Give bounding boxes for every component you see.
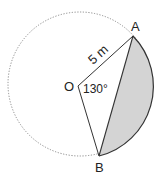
angle-label: 130°: [83, 82, 108, 96]
label-o: O: [64, 79, 74, 94]
label-b: B: [95, 160, 104, 175]
radius-ob: [78, 86, 99, 156]
circle-segment-diagram: O A B 130° 5 m: [0, 0, 164, 182]
label-a: A: [131, 19, 140, 34]
radius-label: 5 m: [85, 42, 111, 68]
